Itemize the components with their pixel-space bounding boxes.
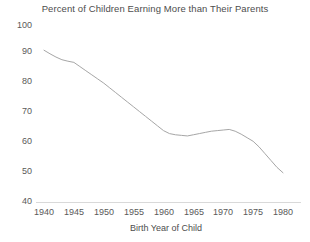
x-tick-label: 1975 (236, 207, 270, 217)
x-tick-label: 1970 (206, 207, 240, 217)
x-axis-title: Birth Year of Child (30, 223, 302, 233)
x-tick-label: 1955 (117, 207, 151, 217)
series-line-chart (0, 0, 310, 242)
x-tick-label: 1980 (266, 207, 300, 217)
plot-area: 100 90 80 70 60 50 40 1940 1945 1950 195… (0, 0, 310, 242)
x-tick-label: 1945 (57, 207, 91, 217)
x-tick-label: 1940 (27, 207, 61, 217)
x-tick-label: 1960 (147, 207, 181, 217)
series-line (44, 50, 283, 173)
chart-container: Percent of Children Earning More than Th… (0, 0, 310, 242)
x-tick-label: 1950 (87, 207, 121, 217)
